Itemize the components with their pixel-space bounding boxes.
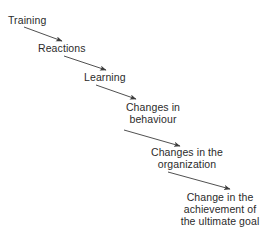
- node-organization-line-1: Changes in the: [140, 146, 234, 158]
- node-organization-line-2: organization: [140, 158, 234, 170]
- node-changes-in-the-organization: Changes in the organization: [140, 146, 234, 170]
- node-learning: Learning: [84, 71, 126, 83]
- node-goal-line-3: the ultimate goal: [168, 215, 272, 227]
- arrow-reactions-to-learning: [64, 56, 106, 70]
- node-change-in-achievement-of-ultimate-goal: Change in the achievement of the ultimat…: [168, 191, 272, 227]
- node-reactions-line-1: Reactions: [38, 42, 86, 54]
- diagram-canvas: Training Reactions Learning Changes in b…: [0, 0, 272, 240]
- node-behaviour-line-2: behaviour: [112, 113, 194, 125]
- node-goal-line-1: Change in the: [168, 191, 272, 203]
- node-changes-in-behaviour: Changes in behaviour: [112, 101, 194, 125]
- arrow-organization-to-goal: [168, 172, 230, 189]
- arrow-behaviour-to-organization: [124, 130, 180, 146]
- arrow-training-to-reactions: [24, 27, 62, 41]
- arrow-learning-to-behaviour: [96, 85, 136, 99]
- node-training: Training: [8, 14, 46, 26]
- node-learning-line-1: Learning: [84, 71, 126, 83]
- node-goal-line-2: achievement of: [168, 203, 272, 215]
- node-training-line-1: Training: [8, 14, 46, 26]
- node-behaviour-line-1: Changes in: [112, 101, 194, 113]
- node-reactions: Reactions: [38, 42, 86, 54]
